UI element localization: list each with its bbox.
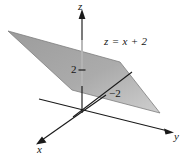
x-axis-label: x: [37, 144, 42, 155]
z-intercept-label: 2: [71, 64, 77, 75]
y-axis-arrowhead: [164, 129, 174, 135]
y-axis-label: y: [174, 131, 179, 142]
graph-canvas: [0, 0, 186, 159]
z-axis-label: z: [78, 1, 82, 12]
x-intercept-label: −2: [109, 88, 121, 99]
plane-graph-figure: z y x 2 −2 z = x + 2: [0, 0, 186, 159]
plane-equation-label: z = x + 2: [104, 36, 147, 47]
